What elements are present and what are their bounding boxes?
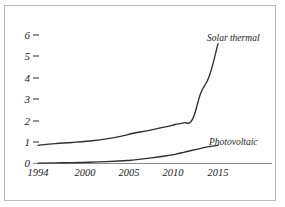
series-line-solar-thermal: [38, 44, 218, 146]
y-axis-ticks: 6 5 4 3 2 1 0: [24, 29, 40, 169]
x-tick-label-2005: 2005: [119, 167, 140, 178]
y-tick-label-5: 5: [25, 50, 31, 62]
series-label-solar-thermal: Solar thermal: [207, 33, 260, 43]
y-tick-label-6: 6: [25, 29, 31, 41]
series-label-photovoltaic: Photovoltaic: [208, 137, 258, 147]
chart-screenshot: 6 5 4 3 2 1 0 1994 2000 2005 2010 2015 S…: [0, 0, 285, 207]
x-axis-ticks: 1994 2000 2005 2010 2015: [28, 167, 229, 178]
x-tick-label-2010: 2010: [163, 167, 185, 178]
series-line-photovoltaic: [38, 145, 218, 163]
x-tick-label-1994: 1994: [28, 167, 50, 178]
x-tick-label-2015: 2015: [208, 167, 229, 178]
x-tick-label-2000: 2000: [75, 167, 97, 178]
y-tick-label-1: 1: [25, 136, 31, 148]
y-tick-label-4: 4: [25, 72, 31, 84]
y-tick-label-3: 3: [24, 93, 31, 105]
y-tick-label-2: 2: [25, 115, 31, 127]
line-chart: 6 5 4 3 2 1 0 1994 2000 2005 2010 2015 S…: [0, 0, 285, 207]
